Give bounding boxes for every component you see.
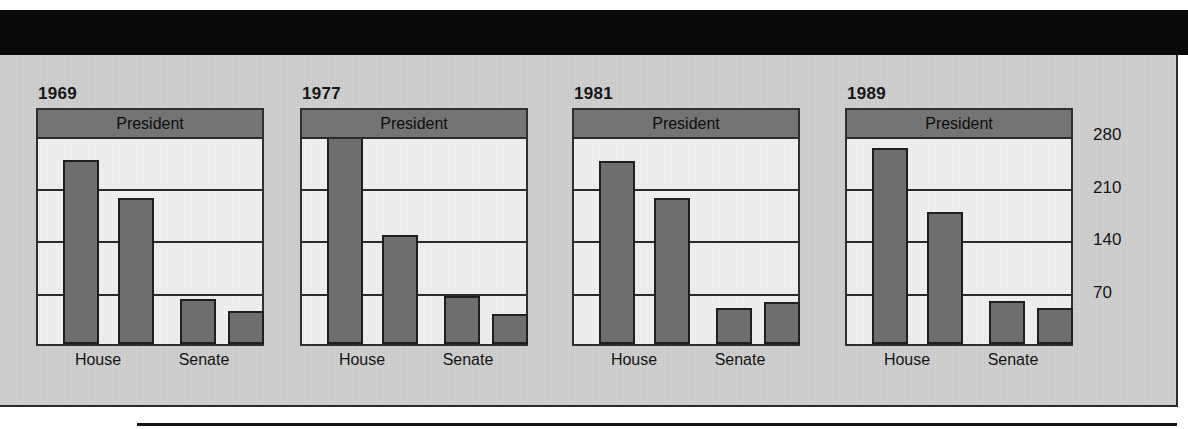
x-label-senate: Senate xyxy=(428,351,508,369)
y-tick-210: 210 xyxy=(1093,179,1121,196)
bar-1989-Senate-majority xyxy=(989,301,1025,344)
figure-panel: 1969PresidentHouseSenate1977PresidentHou… xyxy=(0,55,1178,407)
panel-year-label: 1981 xyxy=(574,85,800,103)
bar-group xyxy=(302,110,526,344)
x-label-house: House xyxy=(58,351,138,369)
x-label-house: House xyxy=(867,351,947,369)
panel-year-label: 1989 xyxy=(847,85,1073,103)
bottom-rule xyxy=(137,423,1177,426)
x-label-house: House xyxy=(594,351,674,369)
x-label-senate: Senate xyxy=(973,351,1053,369)
y-tick-280: 280 xyxy=(1093,126,1121,143)
x-axis-labels: HouseSenate xyxy=(36,346,264,374)
bar-group xyxy=(847,110,1071,344)
bar-1977-House-minority xyxy=(382,235,418,344)
y-axis-ticks: 28021014070 xyxy=(1093,140,1163,420)
y-tick-140: 140 xyxy=(1093,231,1121,248)
president-band: President xyxy=(302,110,526,139)
x-axis-labels: HouseSenate xyxy=(845,346,1073,374)
plot-area: President xyxy=(845,108,1073,346)
plot-area: President xyxy=(300,108,528,346)
chart-panel-1981: 1981PresidentHouseSenate xyxy=(572,85,800,374)
x-label-senate: Senate xyxy=(164,351,244,369)
bar-1977-Senate-majority xyxy=(444,296,480,344)
x-axis-labels: HouseSenate xyxy=(572,346,800,374)
plot-area: President xyxy=(572,108,800,346)
bar-1989-Senate-minority xyxy=(1037,308,1073,344)
bar-1981-House-minority xyxy=(654,198,690,344)
x-label-senate: Senate xyxy=(700,351,780,369)
chart-panel-1969: 1969PresidentHouseSenate xyxy=(36,85,264,374)
bar-1981-Senate-majority xyxy=(716,308,752,345)
chart-panel-1977: 1977PresidentHouseSenate xyxy=(300,85,528,374)
bar-1981-Senate-minority xyxy=(764,302,800,344)
bar-1969-Senate-majority xyxy=(180,299,216,345)
panel-year-label: 1969 xyxy=(38,85,264,103)
president-band: President xyxy=(847,110,1071,139)
bar-1989-House-majority xyxy=(872,148,908,344)
plot-area: President xyxy=(36,108,264,346)
bar-1977-House-majority xyxy=(327,123,363,344)
chart-panel-1989: 1989PresidentHouseSenate xyxy=(845,85,1073,374)
x-label-house: House xyxy=(322,351,402,369)
bar-1969-House-majority xyxy=(63,160,99,344)
president-band: President xyxy=(574,110,798,139)
bar-group xyxy=(574,110,798,344)
bar-1981-House-majority xyxy=(599,161,635,345)
y-tick-70: 70 xyxy=(1093,284,1112,301)
bar-1969-House-minority xyxy=(118,198,154,344)
top-black-banner xyxy=(0,10,1188,55)
scanned-page: 1969PresidentHouseSenate1977PresidentHou… xyxy=(0,0,1188,429)
panel-year-label: 1977 xyxy=(302,85,528,103)
bar-1969-Senate-minority xyxy=(228,311,264,345)
bar-group xyxy=(38,110,262,344)
bar-1977-Senate-minority xyxy=(492,314,528,345)
x-axis-labels: HouseSenate xyxy=(300,346,528,374)
bar-1989-House-minority xyxy=(927,212,963,345)
president-band: President xyxy=(38,110,262,139)
